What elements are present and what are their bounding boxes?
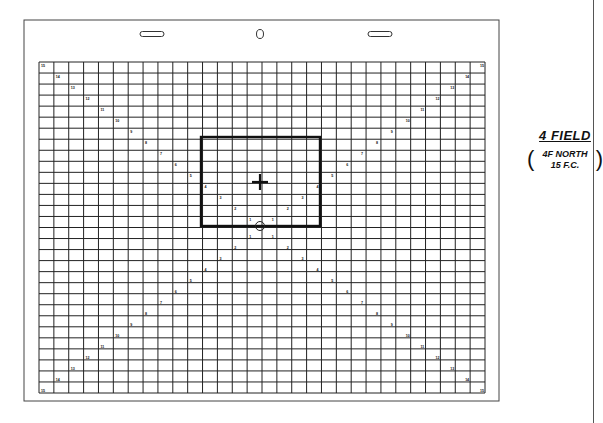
field-mark-label: 7 [361,152,363,156]
field-mark-label: 10 [115,119,119,123]
field-mark-label: 10 [406,119,410,123]
field-mark-label: 14 [465,378,469,382]
field-mark-label: 3 [302,196,304,200]
field-mark-label: 15 [480,64,484,68]
field-mark-label: 3 [219,196,221,200]
field-mark-label: 12 [86,97,90,101]
field-mark-label: 7 [160,301,162,305]
field-mark-label: 11 [421,108,425,112]
field-mark-label: 6 [346,163,348,167]
field-label-details: ( 4F NORTH 15 F.C. ) [530,149,600,171]
field-mark-label: 13 [71,86,75,90]
field-mark-label: 13 [450,86,454,90]
field-mark-label: 14 [56,75,60,79]
peg-round-icon [257,30,264,39]
field-mark-label: 7 [160,152,162,156]
field-grid [39,62,485,393]
field-mark-label: 5 [190,279,192,283]
center-crosshair-icon [252,174,268,190]
field-mark-label: 11 [100,108,104,112]
field-mark-label: 7 [361,301,363,305]
paren-close: ) [596,147,603,171]
field-center-text: 15 F.C. [536,160,594,171]
field-direction-text: 4F NORTH [536,149,594,160]
side-rule-line [593,0,594,423]
field-mark-label: 10 [406,334,410,338]
field-mark-label: 12 [86,356,90,360]
field-mark-label: 9 [391,323,393,327]
field-mark-label: 1 [249,218,251,222]
field-mark-label: 8 [376,312,378,316]
field-mark-label: 1 [272,235,274,239]
field-mark-label: 9 [130,130,132,134]
field-mark-label: 3 [219,257,221,261]
peg-slot-icon [140,32,164,37]
field-mark-label: 9 [391,130,393,134]
field-mark-label: 3 [302,257,304,261]
field-mark-label: 8 [145,312,147,316]
field-mark-label: 4 [205,185,207,189]
field-mark-label: 14 [56,378,60,382]
field-mark-label: 4 [316,268,318,272]
field-mark-label: 15 [41,389,45,393]
field-mark-label: 1 [272,218,274,222]
field-mark-label: 14 [465,75,469,79]
field-size-title: 4 FIELD [530,128,600,143]
field-mark-label: 12 [435,356,439,360]
field-mark-label: 5 [331,279,333,283]
field-mark-label: 9 [130,323,132,327]
field-mark-label: 6 [175,163,177,167]
field-mark-label: 13 [450,367,454,371]
field-mark-label: 12 [435,97,439,101]
field-mark-label: 8 [145,141,147,145]
field-mark-label: 13 [71,367,75,371]
field-mark-label: 15 [41,64,45,68]
peg-slot-icon [368,32,392,37]
field-mark-label: 11 [100,345,104,349]
field-mark-label: 11 [421,345,425,349]
field-mark-label: 6 [175,290,177,294]
field-mark-label: 15 [480,389,484,393]
field-label: 4 FIELD ( 4F NORTH 15 F.C. ) [530,128,600,171]
field-mark-label: 2 [287,246,289,250]
field-mark-label: 4 [316,185,318,189]
paren-open: ( [527,147,534,171]
field-mark-label: 2 [234,207,236,211]
field-mark-label: 6 [346,290,348,294]
field-mark-label: 1 [249,235,251,239]
field-mark-label: 5 [331,174,333,178]
field-mark-label: 2 [234,246,236,250]
field-mark-label: 5 [190,174,192,178]
field-mark-label: 4 [205,268,207,272]
field-mark-label: 10 [115,334,119,338]
field-mark-label: 2 [287,207,289,211]
field-mark-label: 8 [376,141,378,145]
peg-holes [140,30,392,39]
